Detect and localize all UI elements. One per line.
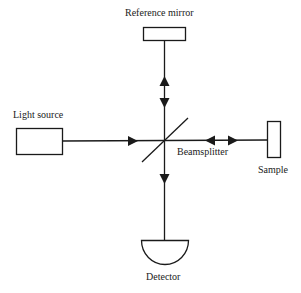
sample-box bbox=[268, 122, 281, 158]
reference-mirror-box bbox=[144, 28, 186, 41]
detector-shape bbox=[142, 241, 189, 265]
interferometer-diagram: Reference mirror Light source Beamsplitt… bbox=[0, 0, 301, 293]
arrow-down-icon bbox=[160, 174, 170, 184]
arrow-down-icon bbox=[160, 98, 170, 108]
reference-mirror-label: Reference mirror bbox=[125, 8, 194, 18]
detector-label: Detector bbox=[146, 272, 180, 282]
light-source-label: Light source bbox=[13, 110, 63, 120]
beamsplitter-label: Beamsplitter bbox=[177, 147, 228, 157]
light-source-box bbox=[17, 129, 63, 155]
arrow-up-icon bbox=[160, 76, 170, 86]
arrow-right-icon bbox=[128, 136, 138, 146]
sample-label: Sample bbox=[258, 165, 288, 175]
arrow-right-icon bbox=[228, 136, 238, 146]
diagram-graphics bbox=[0, 0, 301, 293]
arrow-left-icon bbox=[205, 136, 215, 146]
